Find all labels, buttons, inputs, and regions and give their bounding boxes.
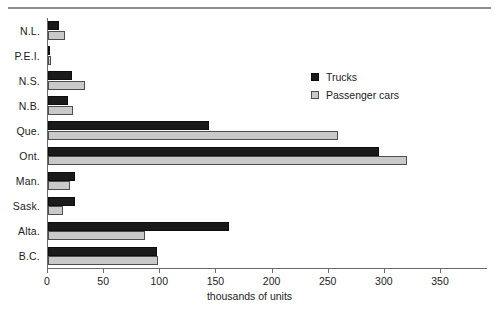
bar-passenger-cars (48, 206, 63, 215)
chart-legend: Trucks Passenger cars (311, 69, 399, 105)
legend-label-trucks: Trucks (326, 71, 357, 83)
bar-group: B.C. (47, 244, 440, 269)
x-tick-label: 50 (97, 275, 109, 287)
category-label: Man. (16, 175, 40, 187)
x-tick-mark (272, 268, 273, 273)
bar-trucks (48, 172, 75, 181)
legend-item-trucks: Trucks (311, 69, 399, 84)
bar-group: P.E.I. (47, 43, 440, 68)
x-tick-label: 300 (375, 275, 393, 287)
bar-group: Man. (47, 169, 440, 194)
category-label: Sask. (13, 200, 40, 212)
x-tick-label: 350 (431, 275, 449, 287)
passenger-cars-swatch-icon (311, 91, 319, 99)
bar-trucks (48, 46, 50, 55)
bar-passenger-cars (48, 231, 145, 240)
x-tick-mark (215, 268, 216, 273)
x-axis-title: thousands of units (0, 290, 499, 302)
bar-passenger-cars (48, 81, 85, 90)
bar-passenger-cars (48, 56, 51, 65)
x-tick-label: 100 (151, 275, 169, 287)
category-label: N.S. (19, 75, 40, 87)
bar-group: Que. (47, 118, 440, 143)
x-tick-mark (328, 268, 329, 273)
legend-label-passenger-cars: Passenger cars (326, 89, 399, 101)
x-tick-label: 200 (263, 275, 281, 287)
x-tick-mark (384, 268, 385, 273)
category-label: N.L. (20, 25, 40, 37)
x-tick-label: 250 (319, 275, 337, 287)
x-tick-label: 0 (44, 275, 50, 287)
top-divider-rule (8, 7, 491, 9)
x-tick-label: 150 (207, 275, 225, 287)
bar-trucks (48, 222, 229, 231)
plot-area: N.L.P.E.I.N.S.N.B.Que.Ont.Man.Sask.Alta.… (47, 18, 440, 269)
bar-trucks (48, 197, 75, 206)
bar-trucks (48, 247, 157, 256)
bar-passenger-cars (48, 31, 65, 40)
bar-trucks (48, 21, 59, 30)
bar-trucks (48, 147, 379, 156)
category-label: B.C. (19, 250, 40, 262)
category-label: Que. (16, 125, 40, 137)
bar-trucks (48, 71, 72, 80)
bar-passenger-cars (48, 156, 407, 165)
bar-trucks (48, 96, 68, 105)
category-label: P.E.I. (14, 50, 40, 62)
bar-passenger-cars (48, 131, 338, 140)
bar-passenger-cars (48, 106, 73, 115)
x-tick-mark (159, 268, 160, 273)
bar-passenger-cars (48, 181, 70, 190)
trucks-swatch-icon (311, 73, 319, 81)
category-label: N.B. (19, 100, 40, 112)
bar-passenger-cars (48, 256, 158, 265)
bar-group: Alta. (47, 219, 440, 244)
bar-group: Ont. (47, 144, 440, 169)
category-label: Ont. (19, 150, 40, 162)
bar-chart: N.L.P.E.I.N.S.N.B.Que.Ont.Man.Sask.Alta.… (0, 0, 499, 317)
x-tick-mark (47, 268, 48, 273)
category-label: Alta. (18, 225, 40, 237)
bar-group: Sask. (47, 194, 440, 219)
legend-item-passenger-cars: Passenger cars (311, 87, 399, 102)
bar-trucks (48, 121, 209, 130)
x-tick-mark (440, 268, 441, 273)
bar-group: N.L. (47, 18, 440, 43)
x-tick-mark (103, 268, 104, 273)
